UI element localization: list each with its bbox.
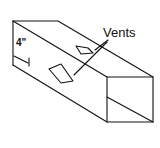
dimension-label: 4" — [16, 37, 27, 48]
box-bottom-long-edge — [13, 65, 107, 122]
vent-leader-upper — [95, 40, 108, 50]
dimension-arrow — [14, 56, 28, 63]
vents-label: Vents — [103, 25, 136, 40]
box-front-diagonal — [107, 97, 153, 122]
box-top-long-edge — [13, 21, 107, 77]
box-front-face — [107, 77, 153, 122]
vent-upper — [76, 46, 93, 54]
box-vents-diagram: Vents 4" — [0, 0, 160, 148]
vent-lower — [49, 64, 73, 83]
